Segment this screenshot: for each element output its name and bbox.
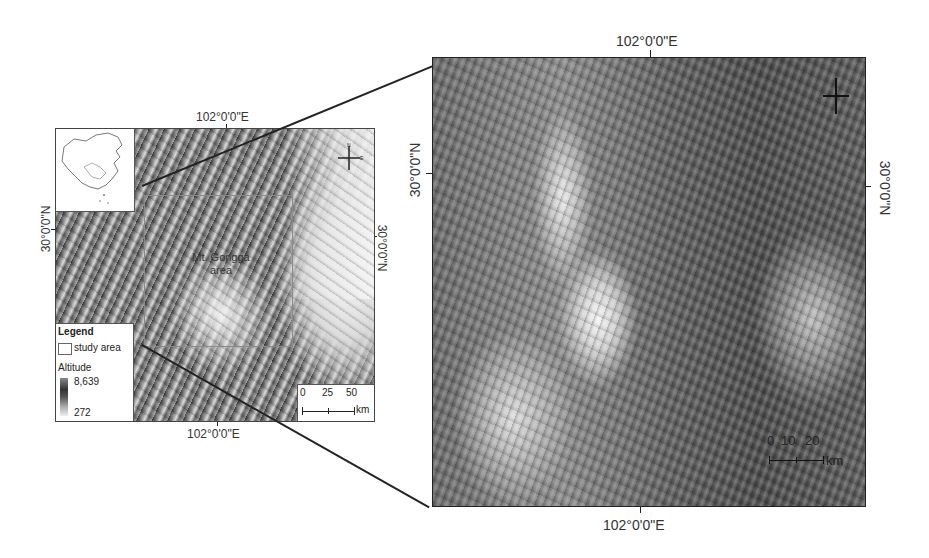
overview-scale-bar: 0 25 50 km (297, 384, 375, 422)
detail-left-latitude-label: 30°0'0"N (407, 130, 423, 210)
overview-north-arrow-icon: N E (334, 143, 364, 173)
scale-tick-10: 10 (781, 433, 795, 448)
altitude-title: Altitude (58, 362, 91, 373)
scale-bar-tick (302, 407, 303, 415)
overview-top-longitude-label: 102°0'0"E (196, 110, 249, 124)
svg-text:N: N (347, 143, 351, 148)
scale-unit: km (826, 453, 843, 468)
altitude-min-label: 272 (74, 407, 91, 418)
scale-bar-tick (796, 457, 797, 463)
china-inset-map (56, 129, 135, 212)
detail-north-arrow-icon (819, 76, 853, 116)
overview-area-label: Mt. Gongga area (176, 251, 266, 277)
detail-bottom-longitude-label: 102°0'0"E (603, 517, 665, 533)
detail-right-latitude-label: 30°0'0"N (877, 148, 893, 228)
scale-bar-tick (769, 456, 770, 464)
detail-bottom-tick (640, 506, 641, 513)
scale-tick-0: 0 (767, 433, 774, 448)
area-label-line1: Mt. Gongga (176, 251, 266, 264)
detail-top-longitude-label: 102°0'0"E (616, 33, 678, 49)
overview-map: Mt. Gongga area N E Legend study area Al… (55, 128, 375, 422)
svg-text:E: E (360, 155, 364, 161)
overview-legend: Legend study area Altitude 8,639 272 (56, 323, 134, 422)
scale-bar-tick (328, 408, 329, 414)
overview-right-latitude-label: 30°0'0"N (375, 218, 389, 278)
scale-bar-tick (354, 407, 355, 415)
overview-bottom-longitude-label: 102°0'0"E (187, 427, 240, 441)
altitude-color-ramp (60, 378, 68, 416)
detail-top-tick (650, 50, 651, 57)
study-area-swatch (58, 343, 72, 355)
detail-map: 0 10 20 km (432, 57, 866, 507)
scale-tick-50: 50 (346, 387, 357, 398)
scale-tick-0: 0 (300, 387, 306, 398)
scale-tick-25: 25 (322, 387, 333, 398)
china-outline-icon (56, 129, 134, 211)
altitude-max-label: 8,639 (74, 376, 99, 387)
detail-scale-bar: 0 10 20 km (765, 433, 855, 475)
study-area-legend-label: study area (74, 342, 121, 353)
scale-tick-20: 20 (805, 433, 819, 448)
legend-title: Legend (58, 326, 94, 337)
area-label-line2: area (176, 264, 266, 277)
scale-bar-tick (823, 456, 824, 464)
scale-unit: km (356, 404, 369, 415)
